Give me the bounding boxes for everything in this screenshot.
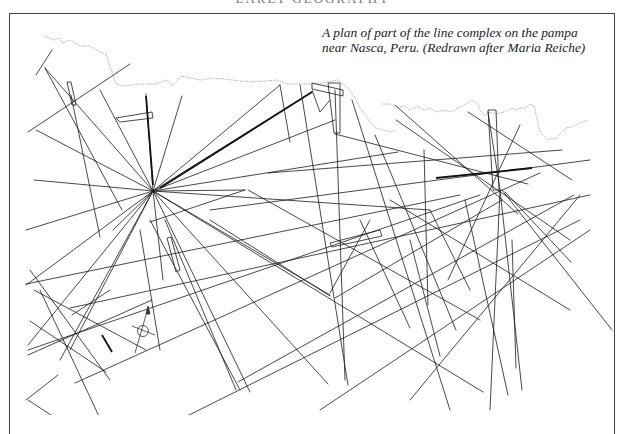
- figure-caption: A plan of part of the line complex on th…: [322, 26, 612, 55]
- geoglyph-lines: [26, 50, 612, 415]
- caption-line-1: A plan of part of the line complex on th…: [322, 26, 612, 41]
- caption-line-2: near Nasca, Peru. (Redrawn after Maria R…: [322, 41, 612, 56]
